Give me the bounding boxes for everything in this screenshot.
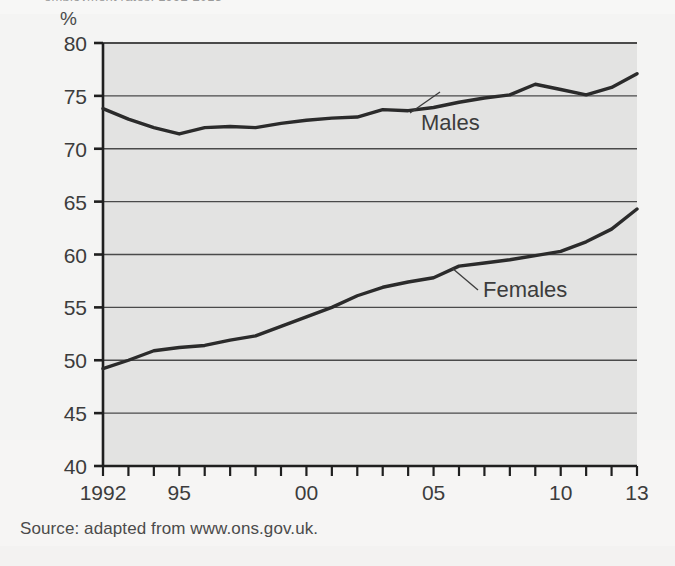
y-axis-tick-label: 60 bbox=[64, 244, 87, 267]
chart-plot-area: 404550556065707580 19929500051013 MalesF… bbox=[0, 0, 675, 566]
x-axis-tick-label: 00 bbox=[295, 481, 318, 504]
source-note: Source: adapted from www.ons.gov.uk. bbox=[20, 519, 318, 539]
x-axis-tick-label: 1992 bbox=[80, 481, 127, 504]
y-axis-tick-label: 65 bbox=[64, 191, 87, 214]
x-axis-tick-label: 10 bbox=[549, 481, 572, 504]
series-annotation-label: Females bbox=[483, 277, 567, 302]
x-axis-tick-label: 05 bbox=[422, 481, 445, 504]
series-annotation-label: Males bbox=[421, 110, 480, 135]
y-axis-tick-label: 75 bbox=[64, 85, 87, 108]
x-axis-tick-label: 95 bbox=[168, 481, 191, 504]
y-axis-tick-label: 45 bbox=[64, 402, 87, 425]
y-axis-tick-label: 50 bbox=[64, 349, 87, 372]
y-axis-tick-labels: 404550556065707580 bbox=[64, 32, 87, 478]
y-axis-tick-label: 70 bbox=[64, 138, 87, 161]
chart-page: employment rates, 1992-2013 % 4045505560… bbox=[0, 0, 675, 566]
x-axis-tick-labels: 19929500051013 bbox=[80, 481, 649, 504]
y-axis-tick-label: 55 bbox=[64, 296, 87, 319]
y-axis-tick-label: 80 bbox=[64, 32, 87, 55]
line-chart: 404550556065707580 19929500051013 MalesF… bbox=[0, 0, 675, 566]
y-axis-tick-label: 40 bbox=[64, 455, 87, 478]
x-axis-tick-label: 13 bbox=[625, 481, 648, 504]
